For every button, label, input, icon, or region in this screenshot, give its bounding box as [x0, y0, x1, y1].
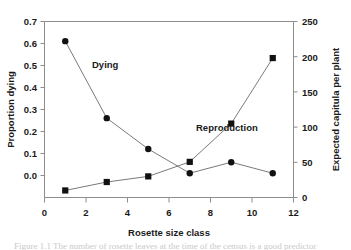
y2-axis-title: Expected capitula per plant [330, 47, 341, 171]
x-tick-label: 2 [83, 207, 88, 218]
chart-canvas: 0.7 0.6 0.5 0.4 0.3 0.2 0.1 0.0 250 200 … [0, 0, 351, 250]
reproduction-point [62, 187, 68, 193]
plot-frame [45, 22, 294, 198]
clipped-caption-text: Figure 1.1 The number of rosette leaves … [0, 241, 351, 250]
dying-point [62, 38, 68, 44]
x-tick-label: 4 [125, 207, 131, 218]
x-axis-ticks [45, 198, 294, 203]
left-tick-label: 0.5 [24, 60, 38, 71]
dying-point [270, 170, 276, 176]
dying-point [228, 159, 234, 165]
dying-point [187, 170, 193, 176]
left-tick-label: 0.1 [24, 148, 38, 159]
right-tick-label: 250 [302, 16, 318, 27]
reproduction-point [104, 179, 110, 185]
left-tick-label: 0.2 [24, 126, 37, 137]
dying-point [104, 115, 110, 121]
left-tick-label: 0.6 [24, 38, 37, 49]
x-tick-label: 12 [288, 207, 299, 218]
dying-point [145, 146, 151, 152]
series-label-dying: Dying [92, 59, 119, 70]
x-tick-label: 8 [208, 207, 213, 218]
right-tick-label: 200 [302, 52, 318, 63]
y-axis-title: Proportion dying [5, 71, 16, 148]
figure-container: 0.7 0.6 0.5 0.4 0.3 0.2 0.1 0.0 250 200 … [0, 0, 351, 250]
left-tick-labels: 0.7 0.6 0.5 0.4 0.3 0.2 0.1 0.0 [24, 16, 38, 181]
x-tick-label: 10 [247, 207, 258, 218]
right-tick-label: 0 [302, 192, 307, 203]
left-tick-label: 0.4 [24, 82, 38, 93]
right-tick-label: 150 [302, 87, 318, 98]
reproduction-point [145, 173, 151, 179]
x-tick-label: 6 [166, 207, 171, 218]
reproduction-point [187, 159, 193, 165]
series-label-reproduction: Reproduction [196, 122, 258, 133]
left-tick-label: 0.0 [24, 170, 37, 181]
left-tick-label: 0.7 [24, 16, 37, 27]
clipped-caption: Figure 1.1 The number of rosette leaves … [0, 241, 351, 250]
x-axis-title: Rosette size class [128, 227, 210, 238]
left-axis-ticks [41, 22, 45, 176]
x-tick-labels: 0 2 4 6 8 10 12 [42, 207, 299, 218]
right-axis-ticks [294, 22, 298, 198]
x-tick-label: 0 [42, 207, 47, 218]
reproduction-point [270, 55, 276, 61]
right-tick-labels: 250 200 150 100 50 0 [302, 16, 318, 203]
right-tick-label: 100 [302, 122, 318, 133]
right-tick-label: 50 [302, 157, 313, 168]
left-tick-label: 0.3 [24, 104, 37, 115]
